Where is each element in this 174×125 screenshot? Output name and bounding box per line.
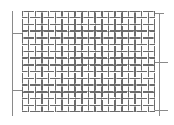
mesh-drawing-canvas — [0, 0, 174, 125]
wire-mesh-layer — [20, 9, 156, 113]
figure-root — [0, 0, 174, 125]
